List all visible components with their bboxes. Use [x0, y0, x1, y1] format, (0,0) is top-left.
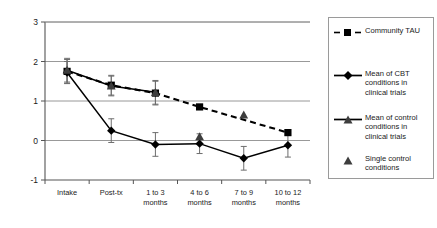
x-tick-label: months	[232, 198, 257, 207]
x-tick-label: 10 to 12	[275, 188, 302, 197]
data-point-marker	[284, 141, 292, 149]
gridlines-group	[45, 22, 310, 141]
data-point-marker	[239, 110, 248, 118]
x-tick-label: Intake	[57, 188, 77, 197]
legend-item-single-control: Single control conditions	[333, 154, 431, 173]
data-point-marker	[151, 140, 159, 148]
x-tick-label: Post-tx	[100, 188, 123, 197]
x-tick-label: months	[276, 198, 301, 207]
legend-label: Single control conditions	[363, 154, 431, 173]
x-tick-label: months	[187, 198, 212, 207]
legend-key-solid-diamond	[333, 70, 363, 81]
legend-item-cbt-mean: Mean of CBT conditions in clinical trial…	[333, 69, 431, 97]
y-axis-ticks-group	[41, 22, 45, 180]
data-point-marker	[284, 129, 291, 136]
legend-label: Community TAU	[363, 26, 420, 35]
chart-figure: IntakePost-tx1 to 3months4 to 6months7 t…	[0, 0, 437, 228]
y-axis-labels-group: -10123	[30, 17, 38, 185]
y-tick-label: 1	[33, 96, 38, 106]
x-axis-ticks-group	[45, 180, 310, 184]
legend-label: Mean of control conditions in clinical t…	[363, 113, 431, 141]
x-tick-label: 4 to 6	[190, 188, 209, 197]
series-line	[67, 71, 288, 132]
series-lines-group	[67, 70, 288, 158]
y-tick-label: 3	[33, 17, 38, 27]
legend-item-control-mean: Mean of control conditions in clinical t…	[333, 113, 431, 141]
data-point-marker	[196, 103, 203, 110]
legend-key-solid-triangle	[333, 114, 363, 125]
legend-label: Mean of CBT conditions in clinical trial…	[363, 69, 431, 97]
y-tick-label: -1	[30, 175, 38, 185]
legend-key-triangle-marker	[333, 155, 363, 166]
chart-legend: Community TAU Mean of CBT conditions in …	[328, 17, 434, 179]
series-line	[67, 73, 288, 159]
y-tick-label: 2	[33, 57, 38, 67]
x-axis-labels-group: IntakePost-tx1 to 3months4 to 6months7 t…	[57, 188, 301, 207]
data-point-marker	[195, 132, 204, 140]
data-point-marker	[240, 154, 248, 162]
legend-item-community-tau: Community TAU	[333, 26, 420, 38]
x-tick-label: 1 to 3	[146, 188, 165, 197]
y-tick-label: 0	[33, 136, 38, 146]
x-tick-label: months	[143, 198, 168, 207]
legend-key-dashed-square	[333, 27, 363, 38]
x-tick-label: 7 to 9	[235, 188, 254, 197]
